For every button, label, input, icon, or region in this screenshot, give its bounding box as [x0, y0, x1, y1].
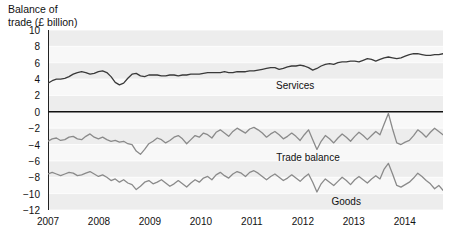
series-label-services: Services — [276, 80, 314, 91]
x-axis-tick-label: 2013 — [331, 216, 377, 227]
y-axis-tick-label: 2 — [6, 90, 40, 101]
series-label-goods: Goods — [331, 196, 360, 207]
y-axis-tick-label: 0 — [6, 106, 40, 117]
y-axis-tick-label: −10 — [6, 188, 40, 199]
x-axis-tick-label: 2014 — [382, 216, 428, 227]
y-axis-tick-label: 6 — [6, 57, 40, 68]
y-axis-tick-label: −4 — [6, 139, 40, 150]
plot-band — [48, 128, 443, 144]
plot-band — [48, 46, 443, 62]
x-axis-tick-label: 2011 — [229, 216, 275, 227]
y-axis-tick-label: −8 — [6, 172, 40, 183]
plot-band — [48, 194, 443, 210]
series-label-trade-balance: Trade balance — [276, 152, 340, 163]
y-axis-tick-label: 10 — [6, 25, 40, 36]
y-axis-tick-label: 8 — [6, 41, 40, 52]
plot-band — [48, 63, 443, 79]
plot-band — [48, 79, 443, 95]
y-axis-tick-label: −6 — [6, 155, 40, 166]
y-axis-tick-label: −12 — [6, 205, 40, 216]
x-axis-tick-label: 2009 — [127, 216, 173, 227]
plot-band — [48, 30, 443, 46]
x-axis-tick-label: 2012 — [280, 216, 326, 227]
x-axis-tick-label: 2010 — [178, 216, 224, 227]
y-axis-tick-label: 4 — [6, 74, 40, 85]
plot-band — [48, 95, 443, 111]
plot-band — [48, 177, 443, 193]
plot-band — [48, 145, 443, 161]
x-axis-tick-label: 2007 — [25, 216, 71, 227]
x-axis-tick-label: 2008 — [76, 216, 122, 227]
plot-area — [48, 30, 443, 210]
balance-of-trade-chart: Balance of trade (£ billion) 1086420−2−4… — [0, 0, 455, 239]
plot-svg — [48, 30, 443, 210]
y-axis-tick-label: −2 — [6, 123, 40, 134]
